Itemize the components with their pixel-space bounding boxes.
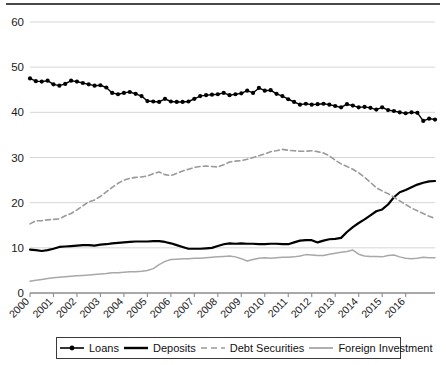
svg-text:60: 60: [11, 16, 24, 28]
data-series-group: [28, 76, 437, 281]
svg-text:2011: 2011: [265, 295, 290, 320]
line-with-marker-icon: [59, 343, 85, 353]
svg-text:50: 50: [11, 61, 24, 73]
svg-text:2009: 2009: [218, 295, 243, 320]
line-chart-svg: 0102030405060 20002001200220032004200520…: [0, 0, 446, 365]
svg-text:40: 40: [11, 106, 24, 118]
svg-text:10: 10: [11, 242, 24, 254]
svg-text:2003: 2003: [77, 295, 102, 320]
legend-label-foreign-investment: Foreign Investment: [338, 342, 432, 354]
svg-text:2015: 2015: [359, 295, 384, 320]
svg-text:2014: 2014: [335, 295, 360, 320]
svg-text:2000: 2000: [6, 295, 31, 320]
svg-text:2006: 2006: [147, 295, 172, 320]
solid-line-icon: [123, 343, 149, 353]
legend-item-debt-securities[interactable]: Debt Securities: [198, 342, 307, 354]
y-axis-tick-labels: 0102030405060: [11, 16, 24, 299]
chart-legend: Loans Deposits Debt Securities Foreign I…: [56, 337, 401, 359]
svg-text:2005: 2005: [124, 295, 149, 320]
light-line-icon: [308, 343, 334, 353]
svg-text:2010: 2010: [241, 295, 266, 320]
svg-text:2007: 2007: [171, 295, 196, 320]
svg-text:2004: 2004: [100, 295, 125, 320]
svg-text:2008: 2008: [194, 295, 219, 320]
svg-text:30: 30: [11, 152, 24, 164]
svg-text:2012: 2012: [288, 295, 313, 320]
svg-text:2002: 2002: [53, 295, 78, 320]
svg-text:2001: 2001: [30, 295, 55, 320]
svg-text:2016: 2016: [382, 295, 407, 320]
legend-item-loans[interactable]: Loans: [57, 342, 121, 354]
dashed-line-icon: [200, 343, 226, 353]
svg-text:2013: 2013: [312, 295, 337, 320]
legend-label-loans: Loans: [89, 342, 119, 354]
chart-container: 0102030405060 20002001200220032004200520…: [0, 0, 446, 365]
legend-label-debt-securities: Debt Securities: [230, 342, 305, 354]
x-axis-tick-labels: 2000200120022003200420052006200720082009…: [6, 295, 407, 320]
legend-item-deposits[interactable]: Deposits: [121, 342, 198, 354]
svg-text:20: 20: [11, 197, 24, 209]
legend-item-foreign-investment[interactable]: Foreign Investment: [306, 342, 434, 354]
legend-label-deposits: Deposits: [153, 342, 196, 354]
